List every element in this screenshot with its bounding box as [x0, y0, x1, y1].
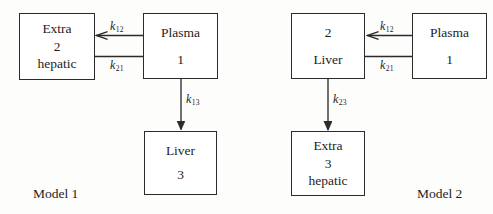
rate-label-k12-model1: k12	[110, 19, 123, 34]
box-extrahepatic-2-model1: Extra 2 hepatic	[19, 13, 95, 80]
box-plasma-1-model2: Plasma 1	[412, 13, 487, 79]
rate-subscript: 23	[339, 98, 347, 107]
rate-label-k23-model2: k23	[333, 92, 346, 107]
box-line: Extra	[313, 137, 342, 155]
rate-symbol: k	[380, 19, 386, 33]
box-liver-3-model1: Liver 3	[144, 131, 217, 195]
rate-symbol: k	[380, 58, 386, 72]
box-line: 3	[325, 155, 332, 173]
rate-symbol: k	[110, 58, 116, 72]
box-line: 2	[325, 24, 332, 42]
rate-label-k12-model2: k12	[380, 19, 393, 34]
box-line: hepatic	[38, 55, 77, 73]
box-liver-2-model2: 2 Liver	[291, 13, 365, 79]
box-extrahepatic-3-model2: Extra 3 hepatic	[291, 131, 365, 196]
box-line: 1	[446, 51, 453, 69]
caption-model-2: Model 2	[417, 186, 462, 202]
rate-label-k13-model1: k13	[186, 92, 199, 107]
box-line: hepatic	[309, 172, 348, 190]
rate-subscript: 12	[386, 25, 394, 34]
caption-model-1: Model 1	[33, 186, 78, 202]
box-plasma-1-model1: Plasma 1	[143, 13, 218, 79]
rate-subscript: 12	[116, 25, 124, 34]
compartment-model-diagram: Extra 2 hepatic Plasma 1 Liver 3 k12 k21…	[0, 0, 493, 214]
rate-symbol: k	[333, 92, 339, 106]
rate-subscript: 21	[386, 64, 394, 73]
box-line: Plasma	[161, 24, 200, 42]
rate-label-k21-model2: k21	[380, 58, 393, 73]
box-line: Plasma	[430, 24, 469, 42]
box-line: 1	[177, 51, 184, 69]
rate-subscript: 13	[192, 98, 200, 107]
rate-symbol: k	[186, 92, 192, 106]
box-line: 2	[54, 38, 61, 56]
box-line: Liver	[313, 51, 342, 69]
rate-subscript: 21	[116, 64, 124, 73]
box-line: Liver	[166, 142, 195, 160]
box-line: Extra	[42, 20, 71, 38]
rate-symbol: k	[110, 19, 116, 33]
box-line: 3	[177, 166, 184, 184]
rate-label-k21-model1: k21	[110, 58, 123, 73]
